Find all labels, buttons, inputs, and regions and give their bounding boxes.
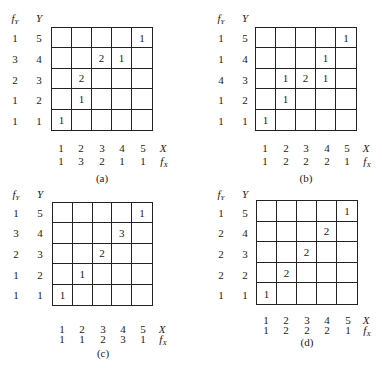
grid-cell <box>297 263 317 284</box>
grid-cell <box>337 283 357 304</box>
y-value: 1 <box>238 289 252 301</box>
y-value: 4 <box>238 227 252 239</box>
grid-cell <box>277 201 297 222</box>
grid-cell <box>297 222 317 243</box>
fx-value: 2 <box>279 324 293 336</box>
grid-cell: 1 <box>257 283 277 304</box>
y-header: Y <box>238 188 252 200</box>
grid-cell <box>297 201 317 222</box>
grid-cell <box>337 263 357 284</box>
fy-value: 2 <box>214 248 228 260</box>
grid-cell: 2 <box>297 242 317 263</box>
fy-value: 1 <box>214 289 228 301</box>
grid-cell <box>317 263 337 284</box>
y-value: 2 <box>238 269 252 281</box>
grid-cell: 2 <box>277 263 297 284</box>
grid-cell <box>317 201 337 222</box>
grid-cell <box>277 222 297 243</box>
y-value: 5 <box>238 207 252 219</box>
fx-value: 1 <box>259 324 273 336</box>
panel-caption: (d) <box>292 336 322 348</box>
fy-header: fY <box>213 188 229 200</box>
fx-label-sub: X <box>366 330 370 338</box>
grid-cell <box>297 283 317 304</box>
fy-value: 1 <box>214 207 228 219</box>
grid-cell <box>257 222 277 243</box>
fy-value: 2 <box>214 227 228 239</box>
y-value: 3 <box>238 248 252 260</box>
fx-value: 2 <box>300 324 314 336</box>
grid-cell <box>277 242 297 263</box>
fx-value: 2 <box>320 324 334 336</box>
grid-cell <box>277 283 297 304</box>
fy-value: 2 <box>214 269 228 281</box>
grid-cell <box>337 222 357 243</box>
grid-cell <box>337 242 357 263</box>
grid-cell: 2 <box>317 222 337 243</box>
grid-cell <box>257 263 277 284</box>
grid-cell <box>257 201 277 222</box>
panel-d: fYY1524232211122211122324251XfX(d) <box>0 0 382 368</box>
grid-cell <box>317 283 337 304</box>
fy-header-sub: Y <box>221 194 225 202</box>
frequency-grid: 12221 <box>256 200 358 305</box>
fx-axis-label: fX <box>359 324 375 336</box>
grid-cell: 1 <box>337 201 357 222</box>
fx-value: 1 <box>341 324 355 336</box>
grid-cell <box>257 242 277 263</box>
grid-cell <box>317 242 337 263</box>
